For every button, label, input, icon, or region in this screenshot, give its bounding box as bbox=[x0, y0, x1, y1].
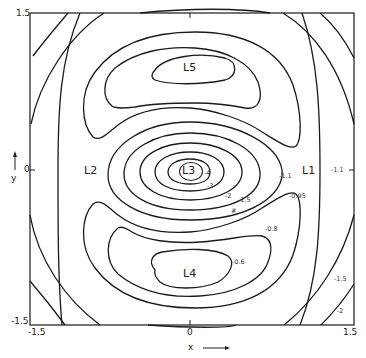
contour-outer-ring bbox=[58, 13, 80, 325]
contour-label-hash: # bbox=[231, 208, 236, 215]
contour-label-m2: -2 bbox=[225, 193, 231, 200]
contour-label-m15-outer: -1.5 bbox=[334, 276, 347, 283]
contour-label-m095: -0.95 bbox=[289, 193, 306, 200]
y-tick-label-mid: 0 bbox=[24, 165, 30, 174]
point-L2: L2 bbox=[84, 165, 97, 176]
contour-label-m08: -0.8 bbox=[265, 226, 278, 233]
contour-label-m3: -3 bbox=[207, 183, 213, 190]
contour-label-m15-inner: -1.5 bbox=[238, 197, 251, 204]
y-axis-arrow-head bbox=[13, 151, 17, 157]
y-tick-label-bottom: -1.5 bbox=[11, 317, 29, 326]
contour-label-m06: -0.6 bbox=[232, 259, 245, 266]
contour-top-left-corner bbox=[33, 13, 68, 56]
contour-bottom-right-corner bbox=[321, 284, 354, 325]
x-tick-label-mid: 0 bbox=[187, 328, 193, 337]
contour-bottom-lobe-inner bbox=[108, 227, 271, 296]
contour-top-right-corner bbox=[320, 13, 354, 58]
y-axis-label: y bbox=[11, 174, 16, 183]
contour-label-m11-outer: -1.1 bbox=[331, 167, 344, 174]
y-tick-label-top: 1.5 bbox=[16, 9, 30, 18]
x-axis-label: x bbox=[188, 343, 193, 352]
contour-top-left-2 bbox=[31, 13, 104, 124]
contour-label-m4: -4 bbox=[204, 170, 210, 177]
point-L1: L1 bbox=[302, 165, 315, 176]
x-axis-arrow-head bbox=[225, 346, 230, 350]
point-L5: L5 bbox=[183, 62, 196, 73]
point-L4: L4 bbox=[183, 268, 196, 279]
x-tick-label-right: 1.5 bbox=[343, 328, 357, 337]
contour-bottom-left-2 bbox=[30, 215, 100, 325]
contour-label-m2-outer: -2 bbox=[337, 308, 343, 315]
contour-top-lobe-outer bbox=[83, 32, 300, 147]
contour-label-m11-inner: -1.1 bbox=[279, 173, 292, 180]
x-tick-label-left: -1.5 bbox=[28, 328, 46, 337]
point-L3: L3 bbox=[182, 165, 195, 176]
